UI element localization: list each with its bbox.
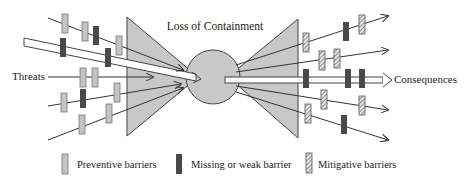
- legend-swatch-mitigative: [306, 153, 312, 173]
- missing-barrier: [93, 26, 99, 45]
- missing-barrier: [359, 69, 365, 88]
- mitigative-barrier: [303, 33, 309, 52]
- preventive-barrier: [114, 83, 120, 102]
- legend-label-mitigative: Mitigative barriers: [318, 159, 396, 170]
- mitigative-barrier: [359, 96, 365, 115]
- missing-barrier: [345, 69, 351, 88]
- legend-swatch-missing: [176, 154, 182, 174]
- preventive-barrier: [82, 22, 88, 41]
- mitigative-barrier: [305, 104, 311, 123]
- missing-barrier: [341, 115, 347, 134]
- legend-label-preventive: Preventive barriers: [77, 159, 157, 170]
- legend-label-missing: Missing or weak barrier: [191, 159, 292, 170]
- missing-barrier: [80, 89, 86, 108]
- preventive-barrier: [62, 14, 68, 33]
- top-event-label: Loss of Containment: [167, 20, 264, 32]
- preventive-barrier: [92, 68, 98, 87]
- missing-barrier: [60, 38, 66, 57]
- preventive-barrier: [61, 93, 67, 112]
- preventive-barrier: [106, 104, 112, 123]
- mitigative-barrier: [319, 51, 325, 70]
- missing-barrier: [105, 48, 111, 67]
- preventive-barrier: [79, 115, 85, 134]
- legend: Preventive barriers Missing or weak barr…: [62, 153, 396, 174]
- missing-barrier: [303, 69, 309, 88]
- mitigative-barrier: [334, 49, 340, 68]
- threats-label: Threats: [12, 70, 45, 82]
- legend-swatch-preventive: [62, 154, 68, 174]
- consequences-label: Consequences: [394, 73, 457, 85]
- bowtie-diagram: Loss of Containment Threats Consequences…: [0, 0, 464, 189]
- mitigative-barrier: [359, 15, 365, 34]
- missing-barrier: [343, 22, 349, 41]
- preventive-barrier: [116, 36, 122, 55]
- preventive-barrier: [80, 68, 86, 87]
- mitigative-barrier: [321, 90, 327, 109]
